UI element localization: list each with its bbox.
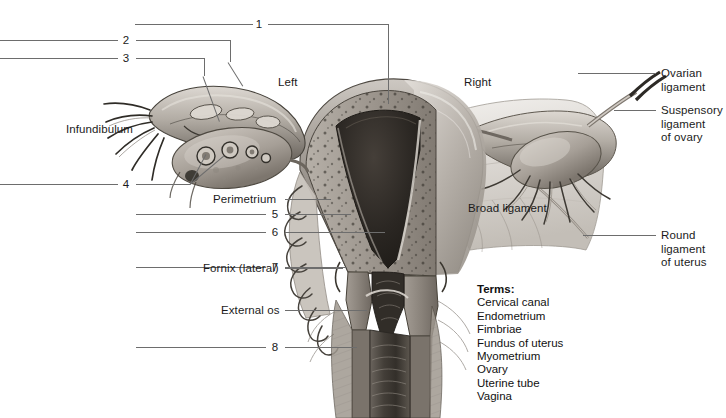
leader-line-external-os [285,310,367,311]
leader-line-perimetrium [285,199,331,200]
label-fornix-lateral: Fornix (lateral) [203,262,279,276]
leader-line-suspensory-ligament [614,110,656,111]
leader-line-8b [285,347,357,348]
label-perimetrium: Perimetrium [213,193,276,207]
callout-number-6: 6 [269,226,281,238]
leader-line-1b [268,24,388,25]
terms-item: Uterine tube [477,377,563,390]
leader-line-1v [388,24,389,104]
leader-line-fornix [285,268,343,269]
leader-line-ovarian-ligament [578,73,656,74]
terms-item: Ovary [477,363,563,376]
anatomical-illustration [0,0,726,418]
leader-line-6b [285,232,385,233]
callout-number-5: 5 [269,208,281,220]
label-left: Left [278,76,298,90]
terms-item: Endometrium [477,310,563,323]
leader-line-2 [0,40,118,41]
figure-canvas: Left Right Infundibulum Perimetrium Broa… [0,0,726,418]
leader-line-round-ligament [583,235,656,236]
leader-line-5b [285,214,351,215]
leader-line-6 [136,232,266,233]
callout-number-2: 2 [120,34,132,46]
terms-list: Cervical canal Endometrium Fimbriae Fund… [477,296,563,403]
leader-line-3b [136,58,204,59]
terms-item: Vagina [477,390,563,403]
label-broad-ligament: Broad ligament [468,202,547,216]
leader-line-2v [230,40,231,62]
label-infundibulum: Infundibulum [66,123,133,137]
terms-item: Fundus of uterus [477,337,563,350]
leader-line-2b [136,40,230,41]
callout-number-7: 7 [269,261,281,273]
terms-box: Terms: Cervical canal Endometrium Fimbri… [477,283,563,404]
label-ovarian-ligament: Ovarian ligament [661,67,705,94]
leader-line-5 [136,214,266,215]
label-suspensory-ligament-of-ovary: Suspensory ligament of ovary [661,104,723,145]
label-round-ligament-of-uterus: Round ligament of uterus [661,229,707,270]
leader-line-3 [0,58,118,59]
callout-number-8: 8 [269,341,281,353]
leader-line-1 [135,24,253,25]
leader-line-3v [204,58,205,76]
terms-item: Myometrium [477,350,563,363]
terms-item: Cervical canal [477,296,563,309]
leader-line-8 [136,347,266,348]
callout-number-1: 1 [253,18,265,30]
callout-number-4: 4 [120,178,132,190]
label-external-os: External os [221,304,280,318]
terms-heading: Terms: [477,283,563,296]
leader-line-4b [136,184,190,185]
callout-number-3: 3 [120,52,132,64]
leader-line-4 [0,184,118,185]
label-right: Right [464,76,491,90]
terms-item: Fimbriae [477,323,563,336]
